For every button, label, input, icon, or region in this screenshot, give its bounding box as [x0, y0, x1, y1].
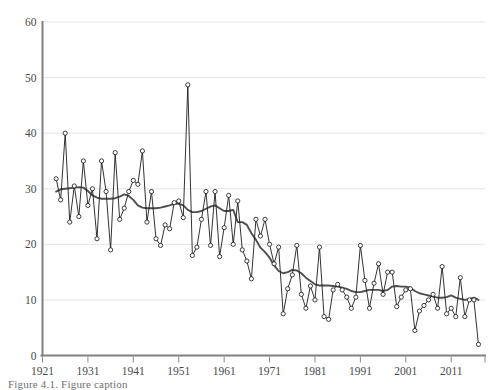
data-point-marker — [122, 206, 126, 210]
data-point-marker — [208, 243, 212, 247]
data-point-marker — [113, 151, 117, 155]
data-point-marker — [168, 227, 172, 231]
x-tick-label: 1931 — [76, 365, 99, 377]
data-point-marker — [131, 178, 135, 182]
data-point-marker — [99, 159, 103, 163]
data-point-marker — [245, 259, 249, 263]
data-point-marker — [390, 270, 394, 274]
y-tick-label: 40 — [25, 127, 37, 139]
data-point-marker — [81, 159, 85, 163]
data-point-marker — [277, 245, 281, 249]
data-point-marker — [227, 193, 231, 197]
data-point-marker — [195, 245, 199, 249]
data-point-markers — [54, 83, 481, 347]
x-axis-tick-labels: 1921193119411951196119711981199120012011 — [31, 365, 463, 377]
data-point-marker — [154, 237, 158, 241]
data-point-marker — [372, 281, 376, 285]
y-tick-label: 30 — [25, 183, 37, 195]
data-point-marker — [68, 220, 72, 224]
data-point-marker — [463, 314, 467, 318]
data-point-marker — [109, 248, 113, 252]
data-point-marker — [367, 306, 371, 310]
data-point-marker — [240, 248, 244, 252]
y-tick-label: 50 — [25, 72, 37, 84]
data-point-marker — [322, 314, 326, 318]
x-tick-label: 1971 — [258, 365, 281, 377]
data-point-marker — [363, 278, 367, 282]
data-point-marker — [90, 187, 94, 191]
data-point-marker — [218, 254, 222, 258]
data-point-marker — [263, 217, 267, 221]
data-point-marker — [186, 83, 190, 87]
data-point-marker — [386, 270, 390, 274]
data-point-marker — [426, 298, 430, 302]
data-point-marker — [440, 264, 444, 268]
data-point-marker — [104, 189, 108, 193]
data-point-marker — [304, 306, 308, 310]
y-tick-label: 10 — [25, 294, 37, 306]
data-point-marker — [317, 245, 321, 249]
data-point-marker — [295, 243, 299, 247]
data-point-marker — [86, 203, 90, 207]
data-point-marker — [158, 243, 162, 247]
data-point-marker — [358, 243, 362, 247]
data-point-marker — [313, 298, 317, 302]
data-point-marker — [272, 262, 276, 266]
data-point-marker — [177, 199, 181, 203]
data-point-marker — [404, 288, 408, 292]
y-tick-label: 60 — [25, 16, 37, 28]
data-point-marker — [231, 242, 235, 246]
y-tick-label: 0 — [31, 350, 37, 362]
data-point-marker — [422, 303, 426, 307]
data-point-marker — [467, 298, 471, 302]
data-point-marker — [59, 198, 63, 202]
x-tick-label: 2011 — [440, 365, 463, 377]
x-tick-label: 1921 — [31, 365, 54, 377]
x-tick-label: 1981 — [303, 365, 326, 377]
x-tick-label: 2001 — [394, 365, 417, 377]
data-point-marker — [54, 177, 58, 181]
data-point-marker — [254, 217, 258, 221]
data-point-marker — [399, 295, 403, 299]
data-point-marker — [140, 149, 144, 153]
annual-value-line — [56, 85, 478, 345]
data-point-marker — [149, 189, 153, 193]
data-point-marker — [431, 292, 435, 296]
data-point-marker — [190, 253, 194, 257]
data-point-marker — [163, 223, 167, 227]
data-point-marker — [331, 288, 335, 292]
data-point-marker — [172, 201, 176, 205]
data-point-marker — [222, 226, 226, 230]
data-point-marker — [290, 273, 294, 277]
data-point-marker — [395, 304, 399, 308]
data-point-marker — [413, 328, 417, 332]
data-point-marker — [199, 217, 203, 221]
data-point-marker — [213, 189, 217, 193]
data-point-marker — [63, 131, 67, 135]
data-point-marker — [236, 199, 240, 203]
data-point-marker — [258, 234, 262, 238]
data-point-marker — [336, 282, 340, 286]
line-chart: 0102030405060 19211931194119511961197119… — [0, 0, 500, 390]
figure-caption: Figure 4.1. Figure caption — [8, 378, 128, 390]
x-tick-label: 1991 — [349, 365, 372, 377]
data-point-marker — [72, 184, 76, 188]
data-point-marker — [127, 189, 131, 193]
data-point-marker — [340, 288, 344, 292]
x-tick-label: 1961 — [213, 365, 236, 377]
data-point-marker — [435, 306, 439, 310]
y-axis-tick-labels: 0102030405060 — [25, 16, 37, 362]
data-point-marker — [354, 295, 358, 299]
figure-root: 0102030405060 19211931194119511961197119… — [0, 0, 500, 390]
data-point-marker — [445, 312, 449, 316]
x-tick-label: 1941 — [122, 365, 145, 377]
data-point-marker — [345, 295, 349, 299]
data-point-marker — [308, 284, 312, 288]
data-point-marker — [95, 237, 99, 241]
data-point-marker — [145, 220, 149, 224]
data-point-marker — [118, 217, 122, 221]
data-point-marker — [299, 292, 303, 296]
data-point-marker — [249, 277, 253, 281]
data-point-marker — [267, 242, 271, 246]
data-point-marker — [286, 287, 290, 291]
